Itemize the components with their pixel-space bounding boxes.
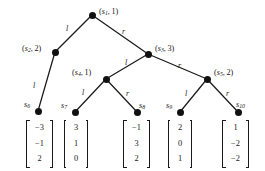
vector-component: 2 [32,153,48,166]
tree-edge-s1-s2 [55,15,92,52]
node-label-s2: (s2, 2) [22,45,41,54]
vector-values: 1−2−2 [226,120,246,168]
bracket-right-icon [50,120,54,168]
vector-component: −1 [129,122,145,135]
node-label-s8: s8 [139,102,145,111]
vector-component: 3 [68,122,84,135]
node-label-s1: (s1, 1) [99,8,118,17]
decision-tree-figure: lrllrlrlr(s1, 1)(s2, 2)(s3, 3)(s4, 1)(s5… [0,0,265,171]
edge-label-s1-s3: r [122,28,125,36]
leaf-vector-s9: 201 [168,120,192,168]
tree-edge-s4-s8 [106,79,137,112]
vector-component: 1 [172,153,188,166]
tree-node-s3 [145,51,152,58]
edge-label-s4-s7: l [82,89,84,97]
bracket-right-icon [190,120,192,168]
edge-label-s5-s10: r [226,90,229,98]
tree-node-s6 [35,108,42,115]
edge-label-s5-s9: l [185,90,187,98]
node-label-s3: (s3, 3) [155,45,174,54]
vector-component: −2 [228,138,244,151]
vector-component: 0 [172,138,188,151]
leaf-vector-s8: −132 [123,120,150,168]
vector-values: 201 [170,120,190,168]
node-label-s5: (s5, 2) [214,69,233,78]
vector-component: 2 [129,153,145,166]
tree-node-s5 [204,76,211,83]
tree-edge-s5-s10 [207,79,238,112]
tree-node-s9 [177,109,184,116]
node-label-s10: s10 [236,101,245,110]
vector-component: 2 [172,122,188,135]
tree-node-s2 [52,49,59,56]
vector-component: 1 [228,122,244,135]
tree-edge-s4-s7 [75,79,106,112]
edge-label-s2-s6: l [33,82,35,90]
tree-node-s1 [89,12,96,19]
leaf-vector-s10: 1−2−2 [222,120,249,168]
node-label-s6: s6 [24,101,30,110]
vector-values: −132 [127,120,147,168]
vector-component: −3 [32,122,48,135]
vector-component: 1 [68,138,84,151]
node-label-s4: (s4, 1) [72,69,91,78]
tree-edge-s1-s3 [92,15,148,54]
bracket-right-icon [86,120,88,168]
vector-component: −1 [32,138,48,151]
tree-node-s7 [72,109,79,116]
vector-component: 0 [68,153,84,166]
leaf-vector-s6: −3−12 [26,120,53,168]
vector-component: −2 [228,153,244,166]
edge-label-s3-s5: r [178,62,181,70]
tree-edge-s2-s6 [38,52,55,111]
leaf-vector-s7: 310 [64,120,88,168]
node-label-s9: s9 [166,102,172,111]
edge-label-s4-s8: r [126,90,129,98]
tree-node-s4 [103,76,110,83]
vector-values: −3−12 [30,120,50,168]
bracket-right-icon [246,120,250,168]
edge-label-s3-s4: l [125,59,127,67]
vector-component: 3 [129,138,145,151]
node-label-s7: s7 [61,102,67,111]
vector-values: 310 [66,120,86,168]
bracket-right-icon [147,120,151,168]
edge-label-s1-s2: l [66,25,68,33]
